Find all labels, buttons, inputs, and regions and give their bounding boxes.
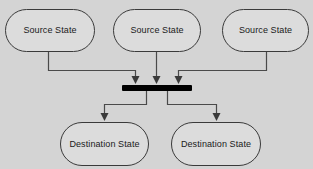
edge-bar-to-destination2-arrowhead — [213, 113, 221, 121]
source-state-2-label: Source State — [130, 26, 183, 35]
destination-state-2-label: Destination State — [181, 140, 251, 149]
destination-state-1-label: Destination State — [69, 140, 139, 149]
source-state-3-label: Source State — [239, 26, 292, 35]
edge-source2-to-bar-arrowhead — [153, 76, 161, 84]
edge-source3-to-bar — [179, 52, 267, 80]
edge-bar-to-destination2 — [168, 91, 217, 117]
outgoing-edge-group — [101, 91, 221, 121]
destination-state-1[interactable]: Destination State — [60, 122, 149, 166]
edge-source1-to-bar — [49, 52, 136, 80]
edge-source3-to-bar-arrowhead — [175, 76, 183, 84]
incoming-edge-group — [49, 52, 267, 84]
uml-state-diagram-canvas: Source State Source State Source State D… — [0, 0, 313, 169]
source-state-1[interactable]: Source State — [5, 9, 95, 52]
destination-state-2[interactable]: Destination State — [171, 122, 261, 166]
source-state-1-label: Source State — [23, 26, 76, 35]
edge-bar-to-destination1 — [105, 91, 147, 117]
synchronization-bar[interactable] — [122, 85, 192, 91]
source-state-3[interactable]: Source State — [222, 9, 309, 52]
edge-source1-to-bar-arrowhead — [132, 76, 140, 84]
source-state-2[interactable]: Source State — [113, 9, 201, 52]
edge-bar-to-destination1-arrowhead — [101, 113, 109, 121]
